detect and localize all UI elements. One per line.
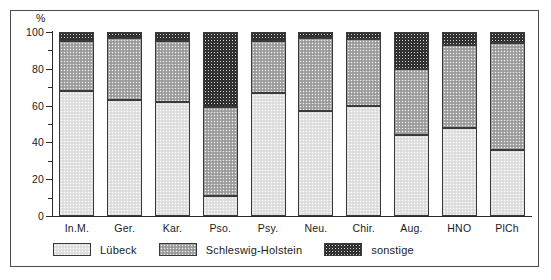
- y-axis-tick-label: 20: [32, 173, 44, 185]
- bar-segment: [394, 135, 429, 216]
- plot-area: 020406080100: [53, 32, 531, 216]
- y-axis-unit-label: %: [36, 12, 45, 24]
- y-axis-tick: [46, 216, 53, 217]
- bar-segment: [155, 41, 190, 102]
- y-axis-tick-label: 60: [32, 100, 44, 112]
- bar-segment: [346, 106, 381, 216]
- y-axis-tick: [48, 198, 53, 199]
- legend-item: Lübeck: [53, 243, 137, 256]
- bar-segment: [203, 196, 238, 216]
- bar-aug: [394, 32, 429, 216]
- bar-segment: [59, 32, 94, 41]
- chart-figure: % 020406080100 In.M.Ger.Kar.Pso.Psy.Neu.…: [0, 0, 551, 280]
- bar-segment: [203, 107, 238, 195]
- bar-segment: [107, 100, 142, 216]
- bar-segment: [490, 43, 525, 150]
- y-axis-tick-label: 0: [38, 210, 44, 222]
- legend-label: Schleswig-Holstein: [206, 244, 303, 256]
- bar-segment: [155, 102, 190, 216]
- bar-psy: [251, 32, 286, 216]
- y-axis-tick: [46, 179, 53, 180]
- bar-segment: [59, 91, 94, 216]
- bar-segment: [298, 32, 333, 38]
- bar-segment: [251, 93, 286, 216]
- y-axis-tick: [48, 87, 53, 88]
- y-axis-tick-label: 40: [32, 136, 44, 148]
- bar-segment: [107, 38, 142, 101]
- bar-ger: [107, 32, 142, 216]
- x-axis-tick-label: PlCh: [477, 222, 537, 234]
- legend-label: sonstige: [371, 244, 414, 256]
- bar-segment: [442, 128, 477, 216]
- bar-segment: [490, 32, 525, 43]
- bar-plch: [490, 32, 525, 216]
- bar-segment: [394, 69, 429, 135]
- y-axis-tick: [46, 69, 53, 70]
- bar-segment: [107, 32, 142, 38]
- legend-swatch-icon: [53, 243, 91, 256]
- bar-hno: [442, 32, 477, 216]
- bar-segment: [298, 38, 333, 112]
- bar-segment: [298, 111, 333, 216]
- bar-segment: [59, 41, 94, 91]
- legend-label: Lübeck: [100, 244, 137, 256]
- legend-swatch-icon: [159, 243, 197, 256]
- bar-segment: [203, 32, 238, 107]
- y-axis-tick: [48, 50, 53, 51]
- bar-segment: [251, 32, 286, 41]
- legend-item: Schleswig-Holstein: [159, 243, 303, 256]
- y-axis-tick: [46, 32, 53, 33]
- bar-segment: [490, 150, 525, 216]
- bar-kar: [155, 32, 190, 216]
- y-axis-tick: [48, 161, 53, 162]
- bar-segment: [442, 32, 477, 45]
- y-axis-tick: [48, 124, 53, 125]
- x-axis-line: [52, 216, 532, 217]
- y-axis-tick-label: 100: [26, 26, 44, 38]
- bar-segment: [251, 41, 286, 93]
- bar-segment: [394, 32, 429, 69]
- y-axis-tick: [46, 142, 53, 143]
- bar-segment: [346, 39, 381, 105]
- bar-segment: [346, 32, 381, 39]
- bar-inm: [59, 32, 94, 216]
- bar-segment: [442, 45, 477, 128]
- legend-swatch-icon: [324, 243, 362, 256]
- bar-segment: [155, 32, 190, 41]
- bar-neu: [298, 32, 333, 216]
- legend-item: sonstige: [324, 243, 414, 256]
- bar-chir: [346, 32, 381, 216]
- y-axis-tick-label: 80: [32, 63, 44, 75]
- bar-pso: [203, 32, 238, 216]
- y-axis-tick: [46, 106, 53, 107]
- chart-legend: LübeckSchleswig-Holsteinsonstige: [53, 243, 436, 256]
